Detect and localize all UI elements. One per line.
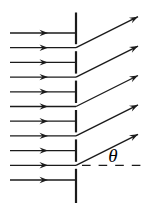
angle-theta-label: θ: [108, 145, 117, 166]
plane-wave-refraction-svg: θ: [0, 0, 143, 212]
refracted-ray: [76, 76, 138, 107]
refracted-ray: [76, 46, 138, 77]
refracted-ray: [76, 105, 138, 136]
refracted-ray: [76, 17, 138, 48]
refracted-ray: [76, 134, 138, 165]
figure-canvas: θ: [0, 0, 143, 212]
diagram-layer: [10, 13, 141, 204]
